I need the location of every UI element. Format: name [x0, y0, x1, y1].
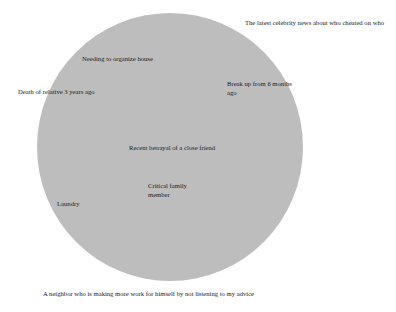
- label-laundry: Laundry: [57, 199, 107, 208]
- label-organize-house: Needing to organize house: [82, 54, 202, 63]
- label-neighbor-advice: A neighbor who is making more work for h…: [43, 289, 258, 298]
- label-death-of-relative: Death of relative 3 years ago: [18, 87, 126, 96]
- label-break-up: Break up from 6 months ago: [227, 79, 299, 98]
- label-recent-betrayal: Recent betrayal of a close friend: [129, 143, 259, 152]
- diagram-canvas: The latest celebrity news about who chea…: [0, 0, 396, 312]
- label-critical-family-member: Critical family member: [148, 181, 208, 200]
- label-celebrity-news: The latest celebrity news about who chea…: [245, 18, 393, 27]
